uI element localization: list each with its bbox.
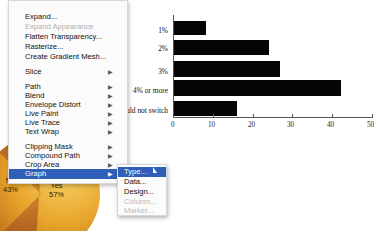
x-tick: 10 — [208, 121, 215, 129]
menu-item-label: Flatten Transparency... — [25, 32, 102, 41]
pie-no-value: 43% — [3, 185, 18, 194]
menu-item-label: Slice — [25, 67, 41, 76]
menu-item-label: Compound Path — [25, 151, 80, 160]
menu-item-label: Path — [25, 82, 41, 91]
bar-3pct[interactable] — [174, 61, 280, 77]
menu-item-label: Clipping Mask — [25, 142, 73, 151]
bar-4pct-or-more[interactable] — [174, 80, 341, 96]
menu-item-expand[interactable]: Expand... — [9, 12, 127, 22]
menu-item-label: Crop Area — [25, 160, 59, 169]
menu-item-label: Envelope Distort — [25, 100, 81, 109]
bar-1pct[interactable] — [174, 21, 206, 35]
menu-item-create-gradient-mesh[interactable]: Create Gradient Mesh... — [9, 52, 127, 62]
tick-mark — [173, 114, 174, 118]
menu-item-label: Expand... — [25, 12, 57, 21]
submenu-item-design[interactable]: Design... — [118, 187, 166, 197]
pie-yes-value: 57% — [49, 190, 64, 199]
menu-item-label: Live Trace — [25, 118, 60, 127]
submenu-arrow-icon: ▶ — [108, 67, 113, 77]
menu-item-label: Expand Appearance — [25, 22, 93, 31]
bar-2pct[interactable] — [174, 40, 269, 55]
menu-item-slice[interactable]: Slice▶ — [9, 67, 127, 77]
menu-item-text-wrap[interactable]: Text Wrap▶ — [9, 127, 127, 137]
menu-item-label: Text Wrap — [25, 127, 59, 136]
tick-mark — [292, 114, 293, 118]
menu-item-flatten-transparency[interactable]: Flatten Transparency... — [9, 32, 127, 42]
menu-item-label: Graph — [25, 169, 46, 178]
menu-item-label: Live Paint — [25, 109, 58, 118]
mouse-cursor-icon — [153, 167, 157, 173]
submenu-item-type[interactable]: Type... — [118, 167, 166, 177]
menu-item-label: Create Gradient Mesh... — [25, 52, 106, 61]
menu-item-label: Rasterize... — [25, 42, 63, 51]
graph-submenu: Type... Data... Design... Column... Mark… — [117, 164, 167, 216]
x-tick: 0 — [171, 121, 175, 129]
bar-would-not-switch[interactable] — [174, 101, 237, 116]
object-menu: Expand... Expand Appearance Flatten Tran… — [8, 0, 128, 184]
x-tick: 30 — [287, 121, 294, 129]
x-tick: 40 — [327, 121, 334, 129]
submenu-arrow-icon: ▶ — [108, 169, 113, 179]
submenu-item-marker: Marker... — [118, 206, 166, 216]
submenu-item-data[interactable]: Data... — [118, 177, 166, 187]
menu-item-rasterize[interactable]: Rasterize... — [9, 42, 127, 52]
menu-item-expand-appearance: Expand Appearance — [9, 22, 127, 32]
x-tick: 20 — [248, 121, 255, 129]
x-axis — [173, 117, 373, 118]
menu-item-graph[interactable]: Graph▶ — [9, 169, 127, 179]
tick-mark — [372, 114, 373, 118]
submenu-arrow-icon: ▶ — [108, 127, 113, 137]
menu-item-label: Blend — [25, 91, 44, 100]
x-tick: 50 — [367, 121, 374, 129]
tick-mark — [253, 114, 254, 118]
tick-mark — [332, 114, 333, 118]
tick-mark — [213, 114, 214, 118]
